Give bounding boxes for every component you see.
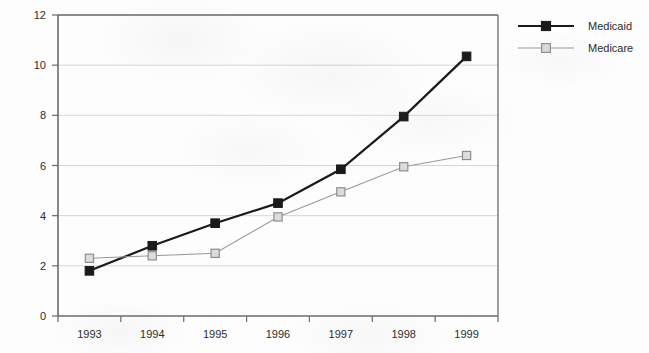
y-tick-label: 0 [40,310,46,322]
line-chart: 024681012 1993199419951996199719981999 M… [0,0,649,353]
legend-label: Medicare [588,42,633,54]
marker-medicaid-1997 [337,165,346,174]
legend-label: Medicaid [588,20,632,32]
x-tick-label: 1996 [266,328,290,340]
legend-marker-filled-square-icon [541,21,550,30]
x-tick-label: 1998 [391,328,415,340]
marker-medicaid-1999 [462,52,471,61]
marker-medicare-1999 [462,151,470,159]
marker-medicare-1998 [400,163,408,171]
legend-marker-open-square-icon [542,44,551,53]
marker-medicare-1996 [274,213,282,221]
y-tick-label: 2 [40,260,46,272]
x-tick-label: 1997 [329,328,353,340]
marker-medicare-1994 [148,252,156,260]
marker-medicaid-1995 [211,219,220,228]
marker-medicaid-1998 [399,112,408,121]
y-tick-label: 4 [40,210,46,222]
marker-medicare-1997 [337,188,345,196]
chart-background [0,0,649,353]
chart-canvas: 024681012 1993199419951996199719981999 M… [0,0,649,353]
x-tick-label: 1993 [77,328,101,340]
marker-medicaid-1994 [148,241,157,250]
y-tick-label: 6 [40,160,46,172]
marker-medicaid-1993 [85,267,94,276]
y-tick-label: 10 [34,59,46,71]
x-tick-label: 1999 [454,328,478,340]
marker-medicare-1993 [85,254,93,262]
y-tick-label: 12 [34,9,46,21]
y-tick-label: 8 [40,109,46,121]
marker-medicaid-1996 [274,199,283,208]
x-tick-label: 1994 [140,328,164,340]
marker-medicare-1995 [211,249,219,257]
x-tick-label: 1995 [203,328,227,340]
